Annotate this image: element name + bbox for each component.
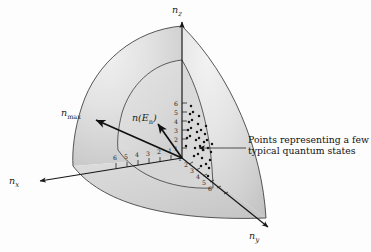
annotation-text: Points representing a few typical quantu… [248,134,369,157]
tick-y-5: 5 [202,179,206,186]
annotation-line-1: Points representing a few [248,134,369,145]
tick-z-5: 5 [174,109,178,116]
tick-x-6: 6 [113,154,117,161]
nx-axis-label: nx [9,176,19,189]
tick-x-2: 2 [157,148,161,155]
tick-x-4: 4 [135,151,139,158]
tick-y-4: 4 [196,173,200,180]
tick-z-4: 4 [174,118,178,125]
tick-y-3: 3 [190,167,194,174]
tick-z-6: 6 [174,100,178,107]
n-max-label: nmax [61,108,81,121]
tick-x-1: 1 [168,147,172,154]
n-of-E-label: n(En) [132,113,157,126]
tick-x-5: 5 [124,153,128,160]
tick-x-3: 3 [146,150,150,157]
tick-y-6: 6 [208,185,212,192]
quantum-state-sphere-diagram [0,0,371,252]
tick-z-3: 3 [174,127,178,134]
annotation-line-2: typical quantum states [248,145,369,156]
tick-y-1: 1 [178,155,182,162]
tick-z-1: 1 [174,145,178,152]
tick-y-2: 2 [184,161,188,168]
nz-axis-label: nz [172,5,182,18]
tick-z-2: 2 [174,136,178,143]
ny-axis-label: ny [249,231,259,244]
